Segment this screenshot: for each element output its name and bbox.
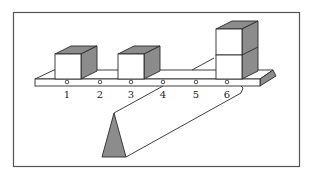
balance-diagram: 1 2 3 4 5 6 xyxy=(0,0,311,176)
peg-1 xyxy=(65,80,69,84)
weight-cube-position-3 xyxy=(118,46,160,79)
position-label-5: 5 xyxy=(193,89,199,100)
peg-5 xyxy=(194,80,198,84)
position-label-3: 3 xyxy=(128,89,134,100)
position-label-4: 4 xyxy=(160,89,166,100)
weight-cube-lower xyxy=(216,55,242,79)
position-label-1: 1 xyxy=(64,89,70,100)
peg-3 xyxy=(129,80,133,84)
peg-6 xyxy=(225,80,229,84)
peg-2 xyxy=(98,80,102,84)
position-label-6: 6 xyxy=(224,89,230,100)
weight-cube-upper xyxy=(216,29,242,55)
position-label-2: 2 xyxy=(97,89,103,100)
weight-cube-position-1 xyxy=(55,46,97,79)
weight-stack-position-6 xyxy=(216,21,258,79)
peg-4 xyxy=(161,80,165,84)
